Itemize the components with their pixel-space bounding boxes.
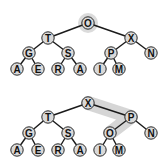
node-label: R <box>54 145 62 156</box>
node-label: I <box>99 145 102 156</box>
node-label: T <box>45 112 51 123</box>
node-label: G <box>25 128 33 139</box>
tree-node-g: G <box>23 47 35 59</box>
tree-node-r: R <box>52 63 64 75</box>
node-label: N <box>147 128 154 139</box>
tree-node-x: X <box>125 32 137 44</box>
node-label: P <box>108 48 115 59</box>
node-label: I <box>99 64 102 75</box>
tree-node-a: A <box>74 63 86 75</box>
heap-diagram: OTXGSPNAERAIMXTPGSONAERAIM <box>0 0 165 167</box>
node-label: P <box>128 112 135 123</box>
node-label: M <box>115 145 123 156</box>
node-label: S <box>65 128 72 139</box>
tree-node-a: A <box>74 144 86 156</box>
node-label: T <box>45 33 51 44</box>
tree-node-p: P <box>125 111 137 123</box>
tree-node-e: E <box>32 63 44 75</box>
tree-node-m: M <box>113 144 125 156</box>
tree-node-m: M <box>113 63 125 75</box>
nodes-layer: OTXGSPNAERAIMXTPGSONAERAIM <box>11 17 157 156</box>
node-label: N <box>147 48 154 59</box>
node-label: G <box>25 48 33 59</box>
node-label: E <box>35 64 42 75</box>
node-label: X <box>128 33 135 44</box>
tree-node-s: S <box>62 127 74 139</box>
node-label: A <box>76 64 83 75</box>
tree-node-e: E <box>32 144 44 156</box>
tree-node-t: T <box>42 111 54 123</box>
tree-node-x: X <box>82 97 94 109</box>
node-label: O <box>84 18 92 29</box>
node-label: X <box>85 98 92 109</box>
node-label: A <box>76 145 83 156</box>
node-label: O <box>106 128 114 139</box>
tree-node-o: O <box>104 127 116 139</box>
node-label: A <box>13 64 20 75</box>
tree-node-p: P <box>105 47 117 59</box>
node-label: S <box>65 48 72 59</box>
node-label: A <box>13 145 20 156</box>
node-label: E <box>35 145 42 156</box>
tree-node-s: S <box>62 47 74 59</box>
tree-node-a: A <box>11 144 23 156</box>
tree-node-n: N <box>145 127 157 139</box>
tree-node-n: N <box>145 47 157 59</box>
node-label: M <box>115 64 123 75</box>
tree-node-i: I <box>94 144 106 156</box>
tree-node-g: G <box>23 127 35 139</box>
tree-node-r: R <box>52 144 64 156</box>
node-label: R <box>54 64 62 75</box>
tree-node-i: I <box>94 63 106 75</box>
tree-node-o: O <box>82 17 94 29</box>
tree-node-a: A <box>11 63 23 75</box>
tree-node-t: T <box>42 32 54 44</box>
